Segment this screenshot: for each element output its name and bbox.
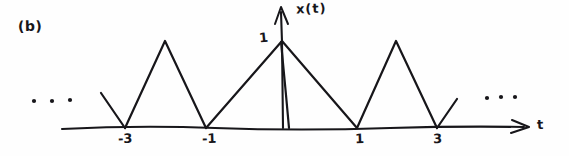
signal-name-label: x(t)	[296, 1, 327, 15]
waveform-triangle-t2	[357, 41, 437, 128]
t-tick-label-plus1: 1	[355, 132, 364, 145]
time-axis-label: t	[537, 118, 544, 131]
t-tick-label-minus3: -3	[118, 132, 133, 145]
waveform-segment-left-partial	[101, 93, 125, 128]
waveform-segment-right-partial	[437, 99, 457, 128]
waveform-triangle-tminus2	[125, 41, 206, 128]
t-tick-label-plus3: 3	[433, 132, 442, 145]
time-axis-line	[62, 127, 524, 130]
amplitude-tick-label: 1	[258, 31, 268, 45]
panel-label: (b)	[18, 19, 43, 34]
ellipsis-right	[485, 95, 517, 100]
figure-panel: (b) x(t) 1 t -3 -1 1 3	[0, 0, 569, 156]
ellipsis-left	[32, 98, 72, 103]
t-tick-label-minus1: -1	[202, 132, 217, 145]
signal-plot	[0, 0, 569, 156]
